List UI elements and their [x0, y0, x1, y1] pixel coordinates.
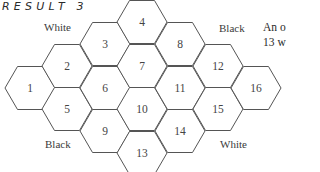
hex-number: 7 [139, 60, 145, 72]
label-white-top-left: White [44, 21, 71, 33]
hex-number: 10 [136, 103, 148, 115]
hex-number: 4 [139, 16, 145, 28]
hex-number: 1 [27, 82, 33, 94]
hex-number: 6 [102, 82, 108, 94]
hex-number: 16 [250, 82, 262, 94]
hex-number: 9 [102, 125, 108, 137]
hex-number: 12 [212, 60, 224, 72]
label-white-bottom-right: White [220, 138, 247, 150]
side-caption-line-1: An o [263, 20, 286, 35]
label-black-bottom-left: Black [45, 138, 71, 150]
side-caption-line-2: 13 w [263, 35, 286, 50]
hex-number: 14 [174, 125, 186, 137]
hex-number: 2 [64, 60, 70, 72]
hex-number: 11 [174, 82, 185, 94]
label-black-top-right: Black [219, 22, 245, 34]
hex-number: 3 [102, 38, 108, 50]
hex-number: 8 [177, 38, 183, 50]
hex-number: 15 [212, 103, 224, 115]
side-caption: An o 13 w [263, 20, 286, 50]
hex-number: 5 [64, 103, 70, 115]
hex-number: 13 [136, 147, 148, 159]
